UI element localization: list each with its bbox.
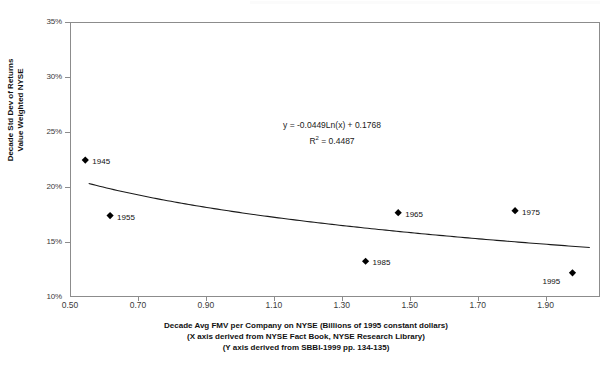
scan-artifact: [250, 1, 600, 4]
x-axis-tick-mark: [138, 297, 139, 301]
y-axis-tick-mark: [65, 132, 70, 133]
y-axis-title-line1: Decade Std Dev of Returns: [6, 30, 16, 190]
chart-container: Decade Std Dev of Returns Value Weighted…: [0, 0, 612, 370]
x-axis-source-note-2: (Y axis derived from SBBI-1999 pp. 134-1…: [0, 342, 612, 353]
x-axis-tick-label: 1.90: [526, 301, 566, 310]
y-axis-tick-label: 10%: [22, 293, 62, 301]
data-point-label: 1955: [117, 213, 135, 222]
x-axis-tick-mark: [342, 297, 343, 301]
x-axis-title: Decade Avg FMV per Company on NYSE (Bill…: [0, 320, 612, 331]
data-point-label: 1985: [373, 258, 391, 267]
x-axis-tick-label: 1.70: [458, 301, 498, 310]
plot-area: [70, 22, 600, 297]
x-axis-source-note-1: (X axis derived from NYSE Fact Book, NYS…: [0, 331, 612, 342]
data-point-label: 1975: [522, 208, 540, 217]
y-axis-title-line2: Value Weighted NYSE: [16, 30, 26, 190]
y-axis-title: Decade Std Dev of Returns Value Weighted…: [6, 30, 26, 190]
x-axis-tick-label: 1.30: [322, 301, 362, 310]
x-axis-caption: Decade Avg FMV per Company on NYSE (Bill…: [0, 320, 612, 353]
x-axis-tick-label: 1.10: [254, 301, 294, 310]
x-axis-tick-label: 0.90: [186, 301, 226, 310]
x-axis-tick-mark: [274, 297, 275, 301]
y-axis-tick-mark: [65, 242, 70, 243]
data-point-label: 1995: [542, 277, 560, 286]
x-axis-tick-mark: [546, 297, 547, 301]
x-axis-tick-label: 1.50: [390, 301, 430, 310]
equation-text: y = -0.0449Ln(x) + 0.1768: [232, 119, 432, 132]
data-point-label: 1945: [92, 157, 110, 166]
data-point-label: 1965: [405, 210, 423, 219]
y-axis-tick-label: 15%: [22, 238, 62, 246]
y-axis-tick-mark: [65, 22, 70, 23]
r-squared-exponent: 2: [316, 135, 319, 141]
x-axis-tick-mark: [478, 297, 479, 301]
x-axis-tick-label: 0.70: [118, 301, 158, 310]
x-axis-tick-mark: [206, 297, 207, 301]
y-axis-tick-label: 20%: [22, 183, 62, 191]
y-axis-tick-label: 25%: [22, 128, 62, 136]
r-squared-value: = 0.4487: [321, 136, 354, 146]
x-axis-tick-label: 0.50: [50, 301, 90, 310]
y-axis-tick-label: 30%: [22, 73, 62, 81]
x-axis-tick-mark: [410, 297, 411, 301]
y-axis-tick-mark: [65, 77, 70, 78]
trendline-equation-annotation: y = -0.0449Ln(x) + 0.1768 R2 = 0.4487: [232, 119, 432, 148]
y-axis-tick-label: 35%: [22, 18, 62, 26]
r-squared-text: R2 = 0.4487: [232, 132, 432, 148]
y-axis-tick-mark: [65, 187, 70, 188]
